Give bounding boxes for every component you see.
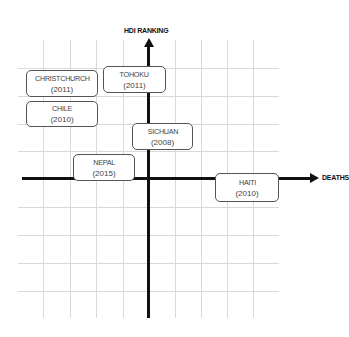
item-name: NEPAL <box>93 157 115 168</box>
arrow-up-icon <box>144 38 154 47</box>
item-name: CHRISTCHURCH <box>35 73 90 84</box>
item-name: CHILE <box>52 103 72 114</box>
item-chile: CHILE (2010) <box>26 101 98 127</box>
item-year: (2015) <box>92 168 115 179</box>
item-year: (2011) <box>123 80 146 91</box>
arrow-right-icon <box>310 173 319 183</box>
item-year: (2010) <box>235 188 258 199</box>
item-name: SICHUAN <box>147 126 178 137</box>
item-name: TOHOKU <box>120 69 149 80</box>
item-sichuan: SICHUAN (2008) <box>132 123 193 150</box>
item-name: HAITI <box>238 177 255 188</box>
y-axis-label: HDI RANKING <box>124 27 168 34</box>
item-tohoku: TOHOKU (2011) <box>103 66 166 93</box>
item-year: (2011) <box>51 84 74 95</box>
item-year: (2010) <box>50 114 73 125</box>
item-christchurch: CHRISTCHURCH (2011) <box>26 70 98 97</box>
item-year: (2008) <box>151 137 174 148</box>
item-haiti: HAITI (2010) <box>215 173 279 202</box>
item-nepal: NEPAL (2015) <box>73 154 135 181</box>
x-axis-label: DEATHS <box>322 174 349 181</box>
